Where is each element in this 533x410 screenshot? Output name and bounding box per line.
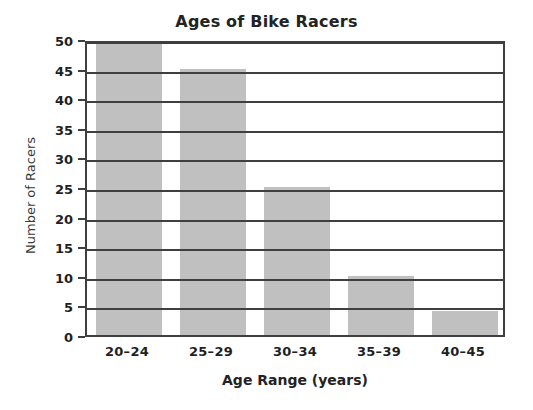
y-tick-mark <box>78 40 85 42</box>
y-tick-label: 15 <box>33 242 73 255</box>
y-tick-label: 5 <box>33 301 73 314</box>
y-tick-label: 20 <box>33 213 73 226</box>
x-tick-label: 40–45 <box>421 344 505 359</box>
y-tick-mark <box>78 99 85 101</box>
bar <box>432 311 497 335</box>
y-tick-mark <box>78 129 85 131</box>
bar <box>96 41 161 335</box>
x-tick-label: 30–34 <box>253 344 337 359</box>
bar <box>348 276 413 335</box>
y-tick-mark <box>78 277 85 279</box>
x-tick-label: 20–24 <box>85 344 169 359</box>
y-tick-label: 0 <box>33 331 73 344</box>
y-tick-mark <box>78 188 85 190</box>
chart-title: Ages of Bike Racers <box>0 12 533 31</box>
x-tick-label: 35–39 <box>337 344 421 359</box>
y-tick-label: 10 <box>33 272 73 285</box>
y-tick-label: 40 <box>33 94 73 107</box>
y-tick-label: 30 <box>33 153 73 166</box>
bar <box>180 69 245 335</box>
y-tick-mark <box>78 336 85 338</box>
y-tick-label: 25 <box>33 183 73 196</box>
bar-chart-figure: Ages of Bike Racers Number of Racers 051… <box>0 0 533 410</box>
x-axis-title: Age Range (years) <box>85 372 505 388</box>
plot-area <box>85 41 505 337</box>
y-tick-label: 45 <box>33 65 73 78</box>
y-tick-label: 35 <box>33 124 73 137</box>
y-tick-mark <box>78 218 85 220</box>
y-tick-mark <box>78 306 85 308</box>
x-tick-label: 25–29 <box>169 344 253 359</box>
y-tick-mark <box>78 158 85 160</box>
y-tick-mark <box>78 247 85 249</box>
y-tick-label: 50 <box>33 35 73 48</box>
bar <box>264 187 329 335</box>
y-tick-mark <box>78 70 85 72</box>
